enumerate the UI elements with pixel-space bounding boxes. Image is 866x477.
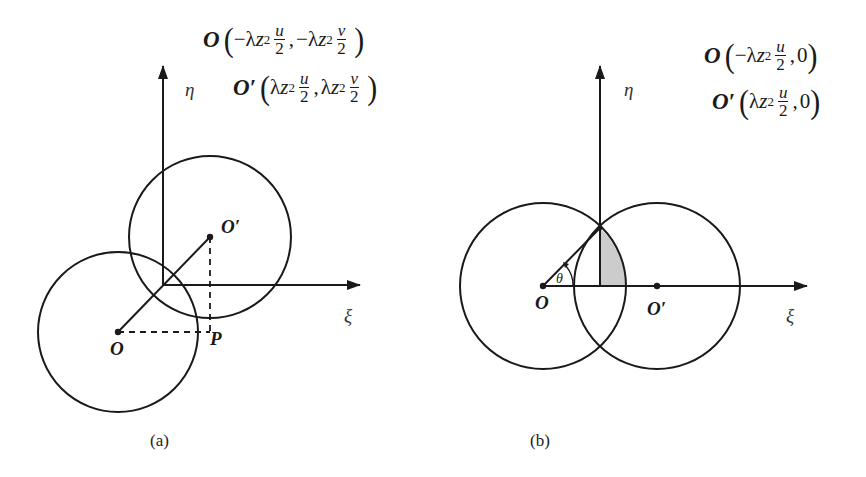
formula-b-O-prime: O′ ( λ z2 u2 , 0 ) bbox=[712, 84, 820, 119]
panel-b: θ O O′ ξ η (b) bbox=[460, 66, 807, 450]
label-O: O bbox=[535, 292, 549, 313]
close-paren: ) bbox=[354, 23, 364, 56]
fraction: u2 bbox=[775, 38, 786, 73]
point-O bbox=[115, 329, 121, 335]
numerator: v bbox=[337, 22, 347, 40]
minus-lambda: −λ bbox=[234, 27, 256, 52]
close-paren: ) bbox=[810, 85, 820, 118]
z: z bbox=[757, 43, 765, 68]
denominator: 2 bbox=[300, 88, 309, 105]
lambda: λ bbox=[270, 75, 280, 100]
open-paren: ( bbox=[739, 85, 749, 118]
point-O-prime bbox=[207, 234, 213, 240]
comma: , bbox=[790, 43, 795, 68]
label-eta: η bbox=[185, 79, 194, 100]
z: z bbox=[256, 27, 264, 52]
close-paren: ) bbox=[808, 39, 818, 72]
comma: , bbox=[313, 75, 318, 100]
lambda: λ bbox=[321, 75, 331, 100]
formula-point: O′ bbox=[233, 75, 256, 101]
zero: 0 bbox=[800, 89, 811, 114]
panel-a: O O′ P ξ η (a) bbox=[38, 66, 360, 450]
subscript: 2 bbox=[288, 80, 295, 96]
point-O-prime bbox=[654, 283, 660, 289]
formula-point: O′ bbox=[712, 89, 735, 115]
denominator: 2 bbox=[337, 40, 346, 57]
subscript: 2 bbox=[767, 94, 774, 110]
z: z bbox=[280, 75, 288, 100]
open-paren: ( bbox=[224, 23, 234, 56]
z: z bbox=[759, 89, 767, 114]
formula-point: O bbox=[203, 27, 220, 53]
label-O: O bbox=[110, 338, 124, 359]
zero: 0 bbox=[797, 43, 808, 68]
subscript: 2 bbox=[765, 48, 772, 64]
denominator: 2 bbox=[776, 56, 785, 73]
theta-arc bbox=[566, 266, 573, 286]
formula-b-O: O ( −λ z2 u2 , 0 ) bbox=[704, 38, 818, 73]
fraction: u2 bbox=[299, 70, 310, 105]
caption-b: (b) bbox=[530, 431, 550, 450]
point-O bbox=[540, 283, 546, 289]
label-xi: ξ bbox=[344, 305, 353, 326]
shaded-region bbox=[600, 228, 626, 286]
point-intersection bbox=[598, 226, 603, 231]
fraction: v2 bbox=[350, 70, 360, 105]
label-P: P bbox=[209, 328, 222, 349]
subscript: 2 bbox=[326, 32, 333, 48]
label-O-prime: O′ bbox=[221, 216, 240, 237]
label-xi: ξ bbox=[786, 305, 795, 326]
lambda: λ bbox=[749, 89, 759, 114]
subscript: 2 bbox=[264, 32, 271, 48]
fraction: u2 bbox=[778, 84, 789, 119]
comma: , bbox=[792, 89, 797, 114]
close-paren: ) bbox=[367, 71, 377, 104]
fraction: u2 bbox=[274, 22, 285, 57]
subscript: 2 bbox=[339, 80, 346, 96]
fraction: v2 bbox=[337, 22, 347, 57]
z: z bbox=[331, 75, 339, 100]
comma: , bbox=[289, 27, 294, 52]
z: z bbox=[318, 27, 326, 52]
caption-a: (a) bbox=[150, 431, 169, 450]
label-theta: θ bbox=[556, 271, 563, 286]
numerator: u bbox=[274, 22, 285, 40]
open-paren: ( bbox=[725, 39, 735, 72]
numerator: v bbox=[350, 70, 360, 88]
label-O-prime: O′ bbox=[647, 298, 666, 319]
denominator: 2 bbox=[779, 102, 788, 119]
denominator: 2 bbox=[275, 40, 284, 57]
formula-point: O bbox=[704, 43, 721, 69]
denominator: 2 bbox=[350, 88, 359, 105]
minus-lambda: −λ bbox=[735, 43, 757, 68]
numerator: u bbox=[775, 38, 786, 56]
formula-a-O: O ( −λ z2 u2 , −λ z2 v2 ) bbox=[203, 22, 364, 57]
label-eta: η bbox=[624, 79, 633, 100]
minus-lambda: −λ bbox=[296, 27, 318, 52]
numerator: u bbox=[778, 84, 789, 102]
numerator: u bbox=[299, 70, 310, 88]
open-paren: ( bbox=[260, 71, 270, 104]
formula-a-O-prime: O′ ( λ z2 u2 , λ z2 v2 ) bbox=[233, 70, 377, 105]
